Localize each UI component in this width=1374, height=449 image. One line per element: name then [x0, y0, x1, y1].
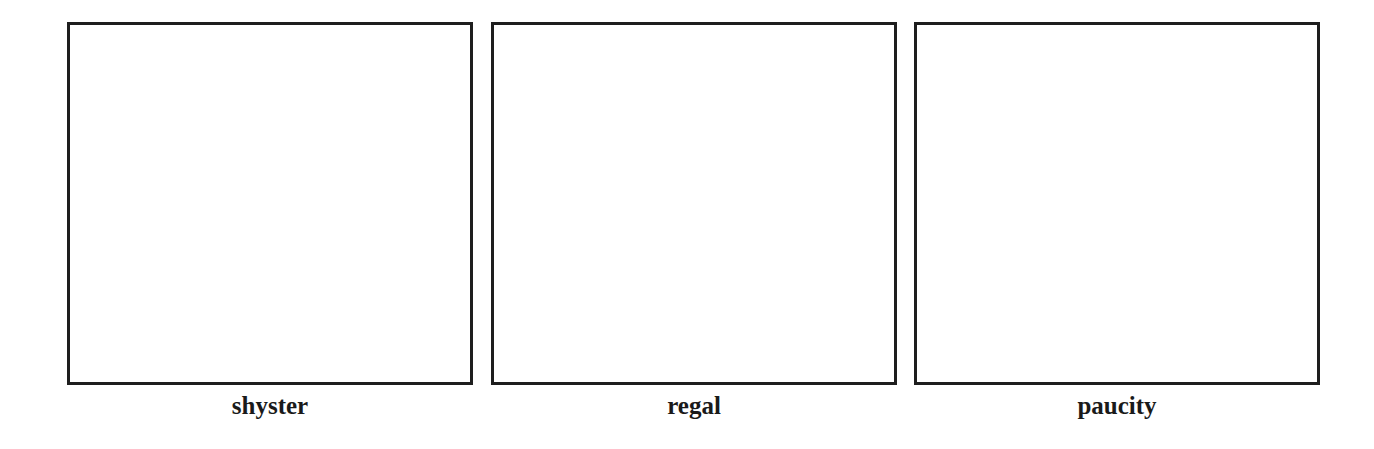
panel-2 — [491, 22, 897, 385]
panel-1 — [67, 22, 473, 385]
panel-1-label: shyster — [67, 392, 473, 420]
panel-2-label: regal — [491, 392, 897, 420]
panel-3-label: paucity — [914, 392, 1320, 420]
panel-3 — [914, 22, 1320, 385]
